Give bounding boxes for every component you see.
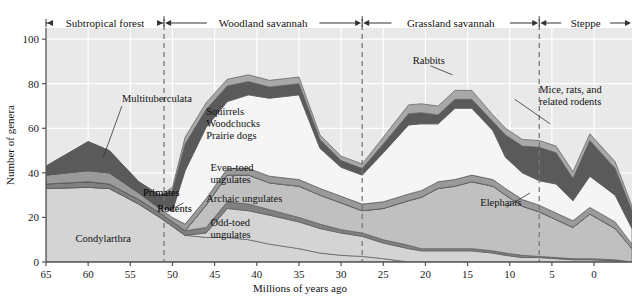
x-tick-label: 60 bbox=[83, 268, 95, 280]
x-tick-label: 40 bbox=[251, 268, 263, 280]
annotation-archaic-ungulates: Archaic ungulates bbox=[206, 193, 282, 204]
era-label: Steppe bbox=[571, 17, 601, 29]
x-tick-label: 30 bbox=[336, 268, 348, 280]
x-tick-label: 45 bbox=[209, 268, 221, 280]
x-tick-label: 20 bbox=[420, 268, 432, 280]
y-axis-title: Number of genera bbox=[4, 105, 16, 185]
era-label: Woodland savannah bbox=[219, 17, 308, 29]
y-tick-label: 0 bbox=[34, 256, 40, 268]
y-tick-label: 80 bbox=[28, 78, 40, 90]
y-tick-label: 20 bbox=[28, 211, 40, 223]
x-tick-label: 65 bbox=[41, 268, 53, 280]
x-tick-label: 50 bbox=[167, 268, 179, 280]
annotation-condylarthra: Condylarthra bbox=[76, 233, 132, 244]
annotation-rabbits: Rabbits bbox=[413, 55, 445, 66]
x-tick-label: 0 bbox=[591, 268, 597, 280]
annotation-even-toed-ungulates: Even-toedungulates bbox=[210, 162, 254, 185]
x-tick-label: 15 bbox=[462, 268, 474, 280]
x-tick-label: 5 bbox=[549, 268, 555, 280]
annotation-rodents: Rodents bbox=[157, 203, 191, 214]
annotation-odd-toed-ungulates: Odd-toedungulates bbox=[210, 217, 250, 240]
annotation-elephants: Elephants bbox=[480, 197, 521, 208]
y-tick-label: 60 bbox=[28, 122, 40, 134]
x-tick-label: 35 bbox=[293, 268, 305, 280]
stacked-area-chart: 02040608010065605550454035302520151050 S… bbox=[0, 0, 637, 302]
annotation-primates: Primates bbox=[143, 187, 180, 198]
figure-root: 02040608010065605550454035302520151050 S… bbox=[0, 0, 637, 302]
y-tick-label: 40 bbox=[28, 167, 40, 179]
x-tick-label: 10 bbox=[504, 268, 516, 280]
x-tick-label: 25 bbox=[378, 268, 390, 280]
x-tick-label: 55 bbox=[125, 268, 137, 280]
era-label: Subtropical forest bbox=[66, 17, 145, 29]
annotation-multituberculata: Multituberculata bbox=[122, 93, 192, 104]
annotation-mice-rats-related-rodents: Mice, rats, andrelated rodents bbox=[539, 84, 602, 107]
x-axis-title: Millions of years ago bbox=[253, 282, 347, 294]
y-tick-label: 100 bbox=[23, 33, 40, 45]
era-label: Grassland savannah bbox=[407, 17, 495, 29]
